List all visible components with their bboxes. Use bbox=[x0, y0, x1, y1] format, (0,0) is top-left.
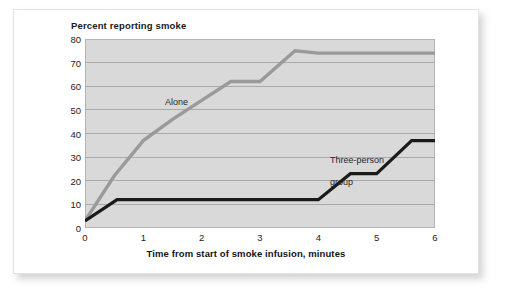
series-line-alone bbox=[85, 51, 435, 221]
chart-canvas bbox=[85, 39, 435, 228]
y-tick-60: 60 bbox=[70, 81, 81, 92]
x-tick-6: 6 bbox=[432, 232, 437, 243]
y-tick-70: 70 bbox=[70, 57, 81, 68]
chart-title: Percent reporting smoke bbox=[71, 20, 186, 31]
y-tick-10: 10 bbox=[70, 199, 81, 210]
figure-card: Percent reporting smoke 0102030405060708… bbox=[13, 9, 479, 274]
plot-container: 01020304050607080 0123456 Alone Three-pe… bbox=[85, 39, 435, 228]
x-axis-title: Time from start of smoke infusion, minut… bbox=[14, 248, 478, 259]
y-tick-20: 20 bbox=[70, 175, 81, 186]
x-tick-2: 2 bbox=[199, 232, 204, 243]
series-lines bbox=[85, 51, 435, 221]
x-tick-4: 4 bbox=[316, 232, 321, 243]
x-tick-3: 3 bbox=[257, 232, 262, 243]
series-label-three-person-group: Three-person group bbox=[330, 144, 384, 188]
series-label-line-1: Three-person bbox=[330, 155, 384, 165]
y-tick-30: 30 bbox=[70, 152, 81, 163]
x-tick-1: 1 bbox=[141, 232, 146, 243]
series-label-line-2: group bbox=[330, 177, 353, 187]
series-label-alone: Alone bbox=[165, 97, 188, 108]
x-tick-0: 0 bbox=[82, 232, 87, 243]
y-tick-0: 0 bbox=[76, 223, 81, 234]
y-tick-50: 50 bbox=[70, 104, 81, 115]
x-tick-5: 5 bbox=[374, 232, 379, 243]
y-tick-40: 40 bbox=[70, 128, 81, 139]
y-tick-80: 80 bbox=[70, 34, 81, 45]
